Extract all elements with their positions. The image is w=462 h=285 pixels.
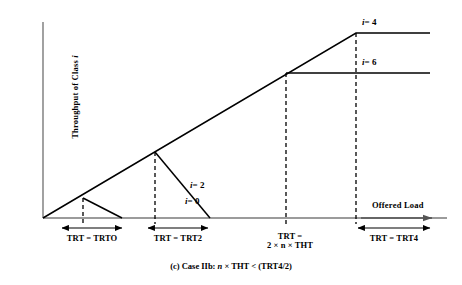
y-axis-label-italic: i bbox=[70, 55, 80, 58]
figure-caption-prefix: (c) Case IIb: bbox=[170, 261, 215, 271]
span-label-trt2-line1: TRT = TRT2 bbox=[132, 234, 224, 243]
span-label-trt0-line1: TRT = TRTO bbox=[46, 234, 138, 243]
series-label-i6: i= 6 bbox=[362, 58, 376, 67]
span-label-trt4: TRT = TRT4 bbox=[348, 234, 440, 243]
y-axis-label: Throughput of Class i bbox=[70, 32, 80, 162]
x-axis-label: Offered Load bbox=[372, 201, 424, 210]
span-label-trt2: TRT = TRT2 bbox=[132, 234, 224, 243]
figure-root: Throughput of Class i i= 0 i= 2 i= 4 i= … bbox=[0, 0, 462, 285]
series-label-i2-value: = 2 bbox=[193, 180, 205, 190]
series-label-i0: i= 0 bbox=[185, 197, 199, 206]
span-label-trt-n-tht: TRT = 2 × n × THT bbox=[244, 232, 336, 250]
span-label-trt-n-tht-line2: 2 × n × THT bbox=[244, 241, 336, 250]
series-label-i4: i= 4 bbox=[362, 18, 376, 27]
figure-caption-var: n bbox=[218, 261, 223, 271]
span-label-trt0: TRT = TRTO bbox=[46, 234, 138, 243]
curve-i0 bbox=[83, 198, 122, 218]
series-label-i6-value: = 6 bbox=[365, 57, 377, 67]
series-label-i0-value: = 0 bbox=[188, 196, 200, 206]
series-label-i4-value: = 4 bbox=[365, 17, 377, 27]
series-label-i2: i= 2 bbox=[190, 181, 204, 190]
y-axis-label-text: Throughput of Class bbox=[70, 60, 80, 139]
span-label-trt4-line1: TRT = TRT4 bbox=[348, 234, 440, 243]
figure-caption-rest: × THT < (TRT4/2) bbox=[224, 261, 291, 271]
figure-caption: (c) Case IIb: n × THT < (TRT4/2) bbox=[0, 261, 462, 271]
